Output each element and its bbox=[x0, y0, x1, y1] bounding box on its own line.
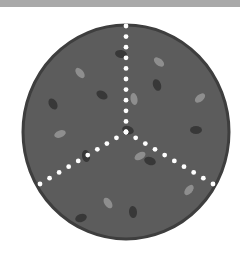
cut-dot bbox=[143, 141, 148, 146]
cut-dot bbox=[182, 164, 187, 169]
cut-dot bbox=[57, 170, 62, 175]
cut-dot bbox=[124, 34, 129, 39]
cut-dot bbox=[153, 147, 158, 152]
cut-dot bbox=[191, 170, 196, 175]
cut-dot bbox=[104, 141, 109, 146]
cut-dot bbox=[124, 77, 129, 82]
cut-dot bbox=[76, 158, 81, 163]
cut-dot bbox=[124, 45, 129, 50]
cut-dot bbox=[124, 108, 129, 113]
cut-dot bbox=[162, 153, 167, 158]
cut-dot bbox=[114, 135, 119, 140]
cut-dot bbox=[47, 176, 52, 181]
pizza-illustration bbox=[0, 0, 240, 258]
cut-dot bbox=[124, 66, 129, 71]
cut-dot bbox=[124, 98, 129, 103]
cut-dot bbox=[95, 147, 100, 152]
cut-dot bbox=[66, 164, 71, 169]
olive-topping bbox=[190, 126, 202, 134]
cut-dot bbox=[38, 182, 43, 187]
cut-dot bbox=[85, 153, 90, 158]
cut-dot bbox=[172, 158, 177, 163]
cut-dot bbox=[124, 55, 129, 60]
cut-dot bbox=[201, 176, 206, 181]
cut-dot bbox=[124, 119, 129, 124]
cut-dot bbox=[124, 130, 129, 135]
cut-dot bbox=[211, 182, 216, 187]
cut-dot bbox=[124, 87, 129, 92]
cut-dot bbox=[124, 24, 129, 29]
cut-dot bbox=[133, 135, 138, 140]
